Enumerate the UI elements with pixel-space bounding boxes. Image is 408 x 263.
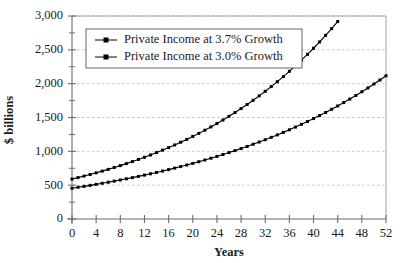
x-tick-label-12: 12 — [138, 226, 151, 240]
legend-entry-1: Private Income at 3.7% Growth — [95, 32, 283, 46]
data-point — [246, 145, 249, 148]
data-point — [155, 171, 158, 174]
data-point — [209, 125, 212, 128]
chart-canvas: 05001,0001,5002,0002,5003,000 0481216202… — [0, 0, 408, 263]
data-point — [119, 164, 122, 167]
y-tick-label-2500: 2,500 — [35, 42, 63, 56]
data-point — [282, 75, 285, 78]
legend-label: Private Income at 3.7% Growth — [124, 32, 283, 46]
data-point — [83, 185, 86, 188]
data-point — [179, 141, 182, 144]
data-point — [282, 131, 285, 134]
data-point — [330, 108, 333, 111]
x-tick-label-36: 36 — [283, 226, 296, 240]
data-point — [71, 178, 74, 181]
data-point — [197, 132, 200, 135]
line-chart: 05001,0001,5002,0002,5003,000 0481216202… — [0, 0, 408, 263]
x-axis-title: Years — [214, 245, 244, 259]
data-point — [203, 159, 206, 162]
x-tick-label-8: 8 — [117, 226, 123, 240]
data-point — [107, 181, 110, 184]
data-point — [288, 70, 291, 73]
data-point — [89, 184, 92, 187]
data-point — [161, 149, 164, 152]
data-point — [119, 179, 122, 182]
data-point — [137, 158, 140, 161]
data-point — [131, 176, 134, 179]
data-point — [149, 172, 152, 175]
data-point — [240, 147, 243, 150]
x-tick-label-4: 4 — [93, 226, 100, 240]
data-point — [318, 114, 321, 117]
data-point — [234, 149, 237, 152]
data-point — [125, 162, 128, 165]
data-point — [252, 99, 255, 102]
y-tick-label-1000: 1,000 — [35, 144, 63, 158]
data-point — [149, 153, 152, 156]
data-point — [324, 34, 327, 37]
data-point — [131, 160, 134, 163]
data-point — [324, 111, 327, 114]
data-point — [173, 143, 176, 146]
x-tick-label-24: 24 — [211, 226, 224, 240]
data-point — [372, 83, 375, 86]
data-point — [89, 173, 92, 176]
data-point — [258, 94, 261, 97]
data-point — [354, 94, 357, 97]
data-point — [101, 170, 104, 173]
data-point — [336, 104, 339, 107]
data-point — [366, 86, 369, 89]
x-tick-label-0: 0 — [69, 226, 75, 240]
data-point — [294, 126, 297, 129]
legend-label: Private Income at 3.0% Growth — [124, 49, 283, 63]
x-tick-labels-group: 0481216202428323640444852 — [69, 226, 392, 240]
data-point — [143, 174, 146, 177]
data-point — [95, 183, 98, 186]
y-tick-label-0: 0 — [57, 211, 63, 225]
data-point — [246, 103, 249, 106]
data-point — [264, 90, 267, 93]
data-point — [221, 153, 224, 156]
data-point — [191, 135, 194, 138]
data-point — [191, 162, 194, 165]
data-point — [221, 118, 224, 121]
data-point — [215, 122, 218, 125]
data-point — [95, 171, 98, 174]
data-point — [161, 170, 164, 173]
data-point — [240, 107, 243, 110]
data-point — [228, 151, 231, 154]
data-point — [167, 168, 170, 171]
data-point — [77, 176, 80, 179]
data-point — [288, 128, 291, 131]
data-point — [143, 156, 146, 159]
y-tick-label-3000: 3,000 — [35, 8, 63, 22]
data-point — [312, 117, 315, 120]
data-point — [155, 151, 158, 154]
series-line — [72, 76, 386, 188]
data-point — [125, 177, 128, 180]
data-point — [107, 168, 110, 171]
chart-legend: Private Income at 3.7% GrowthPrivate Inc… — [86, 29, 302, 68]
x-tick-label-40: 40 — [307, 226, 320, 240]
data-point — [215, 155, 218, 158]
data-point — [336, 20, 339, 23]
y-tick-label-2000: 2,000 — [35, 76, 63, 90]
data-point — [101, 182, 104, 185]
data-point — [173, 167, 176, 170]
data-point — [113, 166, 116, 169]
y-tick-label-500: 500 — [44, 178, 63, 192]
data-point — [197, 160, 200, 163]
data-point — [252, 143, 255, 146]
data-point — [276, 80, 279, 83]
y-axis-title: $ billions — [2, 96, 16, 144]
legend-marker-square — [104, 38, 109, 43]
data-point — [77, 186, 80, 189]
series-2 — [71, 74, 388, 189]
chart-page: 05001,0001,5002,0002,5003,000 0481216202… — [0, 0, 408, 263]
x-tick-label-48: 48 — [356, 226, 369, 240]
data-point — [167, 146, 170, 149]
data-point — [276, 133, 279, 136]
y-tick-labels-group: 05001,0001,5002,0002,5003,000 — [35, 8, 63, 225]
data-point — [360, 90, 363, 93]
data-point — [306, 53, 309, 56]
